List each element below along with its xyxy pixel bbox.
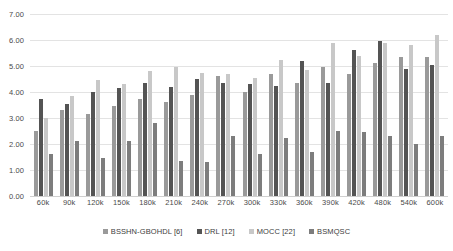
x-axis-tick-label: 390k — [317, 198, 343, 214]
bar — [179, 161, 183, 196]
x-axis-tick-label: 270k — [213, 198, 239, 214]
x-axis-tick-label: 120k — [82, 198, 108, 214]
bar — [269, 74, 273, 196]
y-axis-tick-label: 0.00 — [9, 192, 24, 201]
x-axis: 60k90k120k150k180k210k240k270k300k330k36… — [30, 198, 448, 214]
y-axis-tick-label: 1.00 — [9, 166, 24, 175]
x-axis-tick-label: 540k — [396, 198, 422, 214]
bar — [440, 136, 444, 196]
legend-item[interactable]: BSSHN-GBOHDL [6] — [103, 227, 183, 236]
bar — [414, 144, 418, 196]
bar — [404, 69, 408, 196]
legend-item[interactable]: BSMQSC — [309, 227, 350, 236]
bar — [122, 84, 126, 196]
bar — [70, 96, 74, 196]
bar — [127, 141, 131, 196]
bar — [362, 132, 366, 196]
bar-group — [396, 14, 422, 196]
bar — [174, 67, 178, 196]
bar — [195, 79, 199, 196]
bar — [49, 154, 53, 196]
bar-group — [135, 14, 161, 196]
bar-group — [239, 14, 265, 196]
y-axis-tick-label: 3.00 — [9, 114, 24, 123]
bar — [231, 136, 235, 196]
bar — [86, 114, 90, 196]
legend-swatch-icon — [309, 229, 314, 234]
bar — [279, 60, 283, 197]
bar-group — [344, 14, 370, 196]
y-axis: 7.006.005.004.003.002.001.000.00 — [0, 14, 28, 196]
bar-group — [265, 14, 291, 196]
bar — [169, 87, 173, 196]
x-axis-tick-label: 330k — [265, 198, 291, 214]
bar — [321, 67, 325, 196]
bar — [226, 74, 230, 196]
bar — [331, 43, 335, 196]
x-axis-tick-label: 210k — [161, 198, 187, 214]
bar — [435, 35, 439, 196]
bar — [284, 138, 288, 197]
legend-item-label: BSMQSC — [317, 227, 350, 236]
legend-swatch-icon — [249, 229, 254, 234]
bar — [153, 123, 157, 196]
x-axis-tick-label: 90k — [56, 198, 82, 214]
bar-group — [370, 14, 396, 196]
x-axis-tick-label: 360k — [291, 198, 317, 214]
bar — [96, 80, 100, 196]
bar — [75, 141, 79, 196]
gridline — [30, 196, 448, 197]
y-axis-tick-label: 4.00 — [9, 88, 24, 97]
y-axis-tick-label: 7.00 — [9, 10, 24, 19]
legend-item[interactable]: DRL [12] — [197, 227, 235, 236]
bar — [347, 74, 351, 196]
bar-group — [108, 14, 134, 196]
bar — [357, 56, 361, 196]
bar-groups — [30, 14, 448, 196]
bar — [117, 88, 121, 196]
y-axis-tick-label: 5.00 — [9, 62, 24, 71]
bar — [383, 43, 387, 196]
legend-item[interactable]: MOCC [22] — [249, 227, 295, 236]
bar-chart: 7.006.005.004.003.002.001.000.00 60k90k1… — [0, 0, 453, 251]
bar-group — [291, 14, 317, 196]
bar — [148, 71, 152, 196]
legend-swatch-icon — [103, 229, 108, 234]
y-axis-tick-label: 2.00 — [9, 140, 24, 149]
bar — [388, 136, 392, 196]
bar — [336, 131, 340, 196]
bar — [65, 104, 69, 196]
bar-group — [30, 14, 56, 196]
bar — [274, 86, 278, 197]
bar — [326, 83, 330, 196]
bar — [253, 78, 257, 196]
y-axis-tick-label: 6.00 — [9, 36, 24, 45]
bar-group — [56, 14, 82, 196]
bar-group — [213, 14, 239, 196]
bar-group — [317, 14, 343, 196]
bar — [44, 118, 48, 196]
bar — [164, 102, 168, 196]
bar-group — [187, 14, 213, 196]
bar — [112, 106, 116, 196]
bar-group — [82, 14, 108, 196]
bar — [352, 50, 356, 196]
bar — [399, 57, 403, 196]
bar — [378, 41, 382, 196]
bar — [430, 65, 434, 196]
bar — [243, 92, 247, 196]
bar-group — [161, 14, 187, 196]
x-axis-tick-label: 300k — [239, 198, 265, 214]
bar — [216, 76, 220, 196]
x-axis-tick-label: 480k — [370, 198, 396, 214]
bar — [200, 73, 204, 197]
bar — [310, 152, 314, 196]
bar — [205, 162, 209, 196]
chart-legend: BSSHN-GBOHDL [6]DRL [12]MOCC [22]BSMQSC — [0, 222, 453, 240]
bar — [305, 70, 309, 196]
bar — [248, 84, 252, 196]
x-axis-tick-label: 240k — [187, 198, 213, 214]
bar-group — [422, 14, 448, 196]
bar — [295, 83, 299, 196]
bar — [300, 61, 304, 196]
